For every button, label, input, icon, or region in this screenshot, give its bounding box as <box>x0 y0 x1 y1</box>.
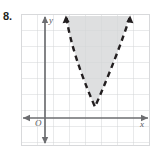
y-axis-label: y <box>49 16 53 25</box>
origin-label: O <box>35 119 42 128</box>
problem-number-label: 8. <box>3 10 12 22</box>
x-axis-label: x <box>140 120 144 129</box>
exercise-figure: 8. <box>0 0 154 154</box>
